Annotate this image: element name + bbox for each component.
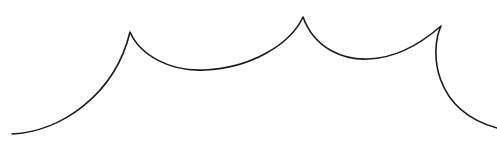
wavy-line-sketch: [0, 0, 497, 143]
drawing-canvas: [0, 0, 497, 143]
cusp-curve-line: [12, 17, 497, 134]
